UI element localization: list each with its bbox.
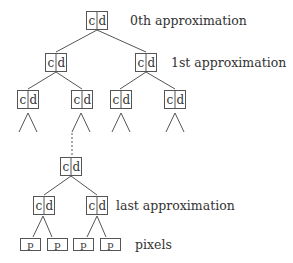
- svg-text:d: d: [98, 199, 106, 213]
- node-last-left: c d: [34, 197, 55, 215]
- label-pixels: pixels: [135, 237, 172, 252]
- label-last-approximation: last approximation: [116, 198, 235, 213]
- node-c: c: [88, 14, 95, 28]
- svg-text:c: c: [47, 56, 54, 70]
- node-deep: c d: [61, 158, 82, 176]
- svg-text:d: d: [176, 93, 184, 107]
- node-l2-1: c d: [18, 91, 39, 109]
- node-l1-right: c d: [136, 54, 157, 72]
- svg-text:c: c: [137, 56, 144, 70]
- svg-text:d: d: [45, 199, 53, 213]
- pixel-1: p: [27, 239, 33, 250]
- node-d: d: [98, 14, 106, 28]
- node-l1-left: c d: [46, 54, 67, 72]
- svg-text:d: d: [29, 93, 37, 107]
- node-l2-3: c d: [111, 91, 132, 109]
- approximation-tree-diagram: c d 0th approximation c d c d 1st approx…: [0, 0, 293, 263]
- svg-text:d: d: [57, 56, 65, 70]
- node-root: c d: [87, 12, 108, 30]
- svg-text:d: d: [72, 160, 80, 174]
- pixel-4: p: [107, 239, 113, 250]
- svg-text:c: c: [112, 93, 119, 107]
- node-l2-2: c d: [72, 91, 93, 109]
- svg-text:d: d: [147, 56, 155, 70]
- pixel-3: p: [80, 239, 86, 250]
- svg-text:c: c: [88, 199, 95, 213]
- label-0th-approximation: 0th approximation: [130, 13, 247, 28]
- svg-text:c: c: [73, 93, 80, 107]
- svg-text:c: c: [166, 93, 173, 107]
- svg-text:c: c: [62, 160, 69, 174]
- pixel-2: p: [54, 239, 60, 250]
- svg-text:d: d: [122, 93, 130, 107]
- svg-text:d: d: [83, 93, 91, 107]
- label-1st-approximation: 1st approximation: [171, 55, 286, 70]
- node-l2-4: c d: [165, 91, 186, 109]
- svg-text:c: c: [19, 93, 26, 107]
- svg-text:c: c: [35, 199, 42, 213]
- pixel-row: p p p p: [21, 239, 121, 251]
- node-last-right: c d: [87, 197, 108, 215]
